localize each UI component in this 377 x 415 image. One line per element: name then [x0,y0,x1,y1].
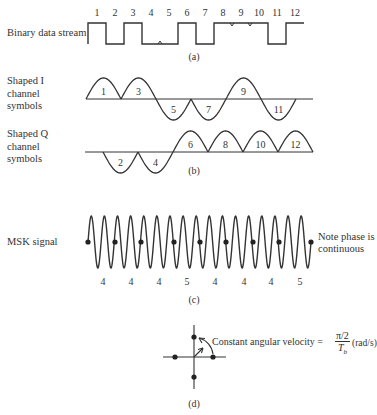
phase-note: Note phase is continuous [318,231,375,255]
caption-b: (b) [188,165,200,176]
symbol-number: 3 [136,86,141,97]
symbol-number: 12 [291,139,301,150]
cycle-count: 4 [157,276,162,287]
msk-signal-label: MSK signal [7,236,57,248]
q-label-line: symbols [7,153,48,166]
constellation-point-bottom [191,374,196,379]
cycle-count: 4 [269,276,274,287]
caption-d: (d) [188,398,200,409]
constellation-point-top [191,334,196,339]
angular-velocity-annotation: Constant angular velocity = [212,336,323,348]
diagram-canvas [0,0,377,415]
rotation-arc-arrow [199,338,213,354]
caption-c: (c) [188,294,199,305]
cycle-count: 4 [213,276,218,287]
q-channel-label: Shaped Q channel symbols [7,128,48,166]
constellation-point-left [172,354,177,359]
symbol-number: 8 [223,139,228,150]
symbol-number: 9 [241,86,246,97]
symbol-number: 4 [153,157,158,168]
angular-velocity-fraction: π/2 Tb [335,330,350,358]
cycle-count: 4 [129,276,134,287]
binary-waveform [88,23,304,44]
q-label-line: channel [7,141,48,154]
cycle-count: 4 [101,276,106,287]
phase-constellation [163,325,226,389]
msk-waveform [85,216,313,268]
fraction-denominator: Tb [335,342,350,358]
symbol-number: 5 [171,104,176,115]
i-label-line: channel [7,88,44,101]
cycle-count: 5 [185,276,190,287]
units-label: (rad/s) [352,337,377,349]
q-label-line: Shaped Q [7,128,48,141]
symbol-number: 2 [118,157,123,168]
symbol-number: 10 [256,139,266,150]
symbol-number: 6 [188,139,193,150]
symbol-number: 1 [101,86,106,97]
constellation-point-right [210,354,215,359]
symbol-number: 11 [274,104,284,115]
symbol-number: 7 [206,104,211,115]
cycle-count: 4 [242,276,247,287]
fraction-denominator-sub: b [343,348,347,356]
caption-a: (a) [188,51,199,62]
note-line: continuous [318,243,375,255]
i-label-line: symbols [7,100,44,113]
cycle-count: 5 [298,276,303,287]
i-channel-label: Shaped I channel symbols [7,75,44,113]
fraction-numerator: π/2 [335,330,350,342]
i-label-line: Shaped I [7,75,44,88]
note-line: Note phase is [318,231,375,243]
